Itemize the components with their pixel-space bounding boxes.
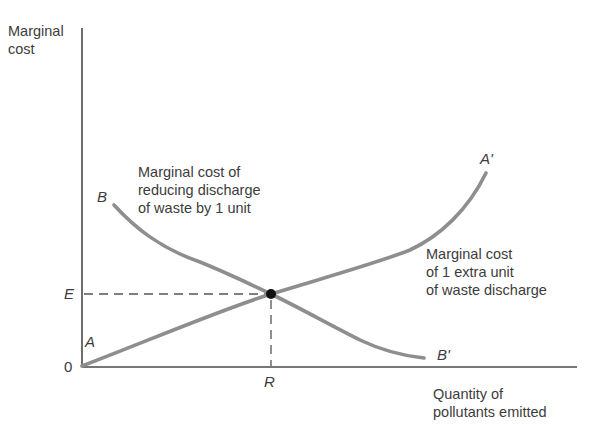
abatement-curve-description: Marginal cost of reducing discharge of w…: [138, 163, 261, 217]
x-axis-label-line1: Quantity of: [433, 385, 547, 403]
y-axis-label: Marginal cost: [8, 22, 64, 58]
abatement-desc-line2: reducing discharge: [138, 181, 261, 199]
y-axis-label-line2: cost: [8, 40, 64, 58]
damage-desc-line3: of waste discharge: [426, 281, 547, 299]
damage-desc-line2: of 1 extra unit: [426, 263, 547, 281]
diagram-canvas: [0, 0, 592, 443]
damage-curve-description: Marginal cost of 1 extra unit of waste d…: [426, 245, 547, 299]
equilibrium-point: [266, 289, 276, 299]
damage-desc-line1: Marginal cost: [426, 245, 547, 263]
x-axis-label-line2: pollutants emitted: [433, 403, 547, 421]
abatement-desc-line1: Marginal cost of: [138, 163, 261, 181]
origin-label: 0: [64, 358, 72, 376]
r-label: R: [264, 373, 275, 391]
b-prime-label: B': [437, 346, 450, 364]
abatement-desc-line3: of waste by 1 unit: [138, 199, 261, 217]
x-axis-label: Quantity of pollutants emitted: [433, 385, 547, 421]
b-label: B: [97, 188, 107, 206]
e-label: E: [64, 285, 74, 303]
a-label: A: [85, 333, 95, 351]
y-axis-label-line1: Marginal: [8, 22, 64, 40]
a-prime-label: A': [480, 150, 493, 168]
